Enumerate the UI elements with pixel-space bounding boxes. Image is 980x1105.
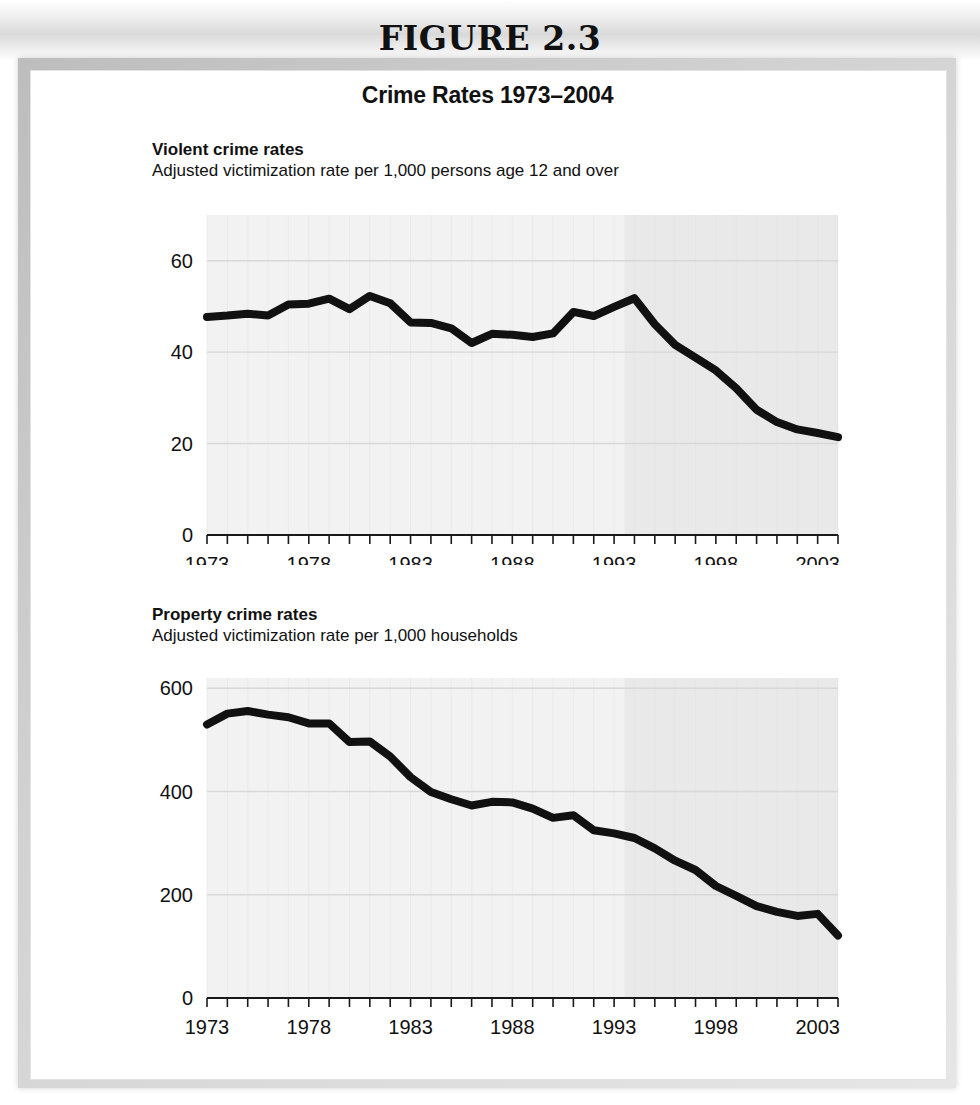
plot-background-right [624, 678, 838, 998]
y-axis-tick-label: 40 [171, 341, 193, 363]
violent-crime-chart: 02040601973197819831988199319982003 [0, 205, 980, 565]
violent-crime-plot: 02040601973197819831988199319982003 [0, 205, 980, 565]
violent-crime-panel-header: Violent crime rates Adjusted victimizati… [152, 140, 619, 182]
plot-background-left [207, 215, 624, 535]
x-axis-tick-label: 2003 [795, 553, 840, 565]
property-crime-chart: 02004006001973197819831988199319982003 [0, 668, 980, 1048]
y-axis-tick-label: 400 [160, 781, 193, 803]
chart-main-heading: Crime Rates 1973–2004 [30, 82, 945, 109]
plot-background-left [207, 678, 624, 998]
x-axis-tick-label: 1988 [490, 1016, 535, 1038]
y-axis-tick-label: 60 [171, 250, 193, 272]
y-axis-tick-label: 20 [171, 433, 193, 455]
x-axis-tick-label: 1998 [694, 1016, 739, 1038]
y-axis-tick-label: 600 [160, 677, 193, 699]
y-axis-tick-label: 0 [182, 524, 193, 546]
x-axis-tick-label: 1978 [287, 1016, 332, 1038]
x-axis-tick-label: 1983 [388, 1016, 433, 1038]
x-axis-tick-label: 1998 [694, 553, 739, 565]
violent-crime-panel-title: Violent crime rates [152, 140, 619, 160]
x-axis-tick-label: 2003 [795, 1016, 840, 1038]
x-axis-tick-label: 1993 [592, 1016, 637, 1038]
plot-background-right [624, 215, 838, 535]
figure-number-label: FIGURE 2.3 [0, 22, 980, 55]
y-axis-tick-label: 0 [182, 987, 193, 1009]
y-axis-tick-label: 200 [160, 884, 193, 906]
x-axis-tick-label: 1973 [185, 553, 230, 565]
x-axis-tick-label: 1988 [490, 553, 535, 565]
property-crime-panel-title: Property crime rates [152, 605, 518, 625]
violent-crime-panel-subtitle: Adjusted victimization rate per 1,000 pe… [152, 160, 619, 182]
property-crime-plot: 02004006001973197819831988199319982003 [0, 668, 980, 1048]
property-crime-panel-header: Property crime rates Adjusted victimizat… [152, 605, 518, 647]
x-axis-tick-label: 1983 [388, 553, 433, 565]
x-axis-tick-label: 1978 [287, 553, 332, 565]
x-axis-tick-label: 1973 [185, 1016, 230, 1038]
x-axis-tick-label: 1993 [592, 553, 637, 565]
property-crime-panel-subtitle: Adjusted victimization rate per 1,000 ho… [152, 625, 518, 647]
